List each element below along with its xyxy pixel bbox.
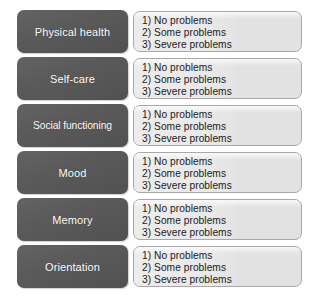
options-list: 1) No problems 2) Some problems 3) Sever… bbox=[142, 250, 232, 285]
options-panel-memory: 1) No problems 2) Some problems 3) Sever… bbox=[133, 199, 302, 240]
domain-box-orientation[interactable]: Orientation bbox=[17, 245, 128, 288]
domain-box-social-functioning[interactable]: Social functioning bbox=[17, 104, 128, 147]
option-item[interactable]: 3) Severe problems bbox=[142, 227, 232, 239]
option-item[interactable]: 1) No problems bbox=[142, 203, 232, 215]
domain-label: Mood bbox=[57, 167, 89, 179]
option-item[interactable]: 2) Some problems bbox=[142, 27, 232, 39]
option-item[interactable]: 1) No problems bbox=[142, 250, 232, 262]
domain-label: Orientation bbox=[43, 261, 102, 273]
options-list: 1) No problems 2) Some problems 3) Sever… bbox=[142, 62, 232, 97]
option-item[interactable]: 1) No problems bbox=[142, 109, 232, 121]
option-item[interactable]: 3) Severe problems bbox=[142, 180, 232, 192]
options-panel-orientation: 1) No problems 2) Some problems 3) Sever… bbox=[133, 246, 302, 287]
options-panel-social-functioning: 1) No problems 2) Some problems 3) Sever… bbox=[133, 105, 302, 146]
domain-label: Self-care bbox=[48, 73, 97, 85]
option-item[interactable]: 1) No problems bbox=[142, 62, 232, 74]
domain-label: Memory bbox=[50, 214, 94, 226]
domain-box-memory[interactable]: Memory bbox=[17, 198, 128, 241]
option-item[interactable]: 2) Some problems bbox=[142, 168, 232, 180]
domain-row: Self-care 1) No problems 2) Some problem… bbox=[0, 57, 318, 100]
options-list: 1) No problems 2) Some problems 3) Sever… bbox=[142, 203, 232, 238]
option-item[interactable]: 3) Severe problems bbox=[142, 274, 232, 286]
option-item[interactable]: 3) Severe problems bbox=[142, 133, 232, 145]
option-item[interactable]: 1) No problems bbox=[142, 15, 232, 27]
domain-box-physical-health[interactable]: Physical health bbox=[17, 10, 128, 53]
domain-row: Mood 1) No problems 2) Some problems 3) … bbox=[0, 151, 318, 194]
domain-row: Physical health 1) No problems 2) Some p… bbox=[0, 10, 318, 53]
option-item[interactable]: 2) Some problems bbox=[142, 121, 232, 133]
domain-row: Orientation 1) No problems 2) Some probl… bbox=[0, 245, 318, 288]
domain-box-self-care[interactable]: Self-care bbox=[17, 57, 128, 100]
options-list: 1) No problems 2) Some problems 3) Sever… bbox=[142, 109, 232, 144]
option-item[interactable]: 3) Severe problems bbox=[142, 39, 232, 51]
options-panel-physical-health: 1) No problems 2) Some problems 3) Sever… bbox=[133, 11, 302, 52]
domain-box-mood[interactable]: Mood bbox=[17, 151, 128, 194]
option-item[interactable]: 2) Some problems bbox=[142, 74, 232, 86]
domain-row: Social functioning 1) No problems 2) Som… bbox=[0, 104, 318, 147]
domain-row: Memory 1) No problems 2) Some problems 3… bbox=[0, 198, 318, 241]
options-list: 1) No problems 2) Some problems 3) Sever… bbox=[142, 156, 232, 191]
option-item[interactable]: 2) Some problems bbox=[142, 215, 232, 227]
options-panel-self-care: 1) No problems 2) Some problems 3) Sever… bbox=[133, 58, 302, 99]
options-panel-mood: 1) No problems 2) Some problems 3) Sever… bbox=[133, 152, 302, 193]
domain-label: Physical health bbox=[33, 26, 113, 38]
domain-label: Social functioning bbox=[31, 120, 114, 132]
option-item[interactable]: 3) Severe problems bbox=[142, 86, 232, 98]
options-list: 1) No problems 2) Some problems 3) Sever… bbox=[142, 15, 232, 50]
assessment-domains-diagram: Physical health 1) No problems 2) Some p… bbox=[0, 0, 318, 298]
option-item[interactable]: 2) Some problems bbox=[142, 262, 232, 274]
option-item[interactable]: 1) No problems bbox=[142, 156, 232, 168]
